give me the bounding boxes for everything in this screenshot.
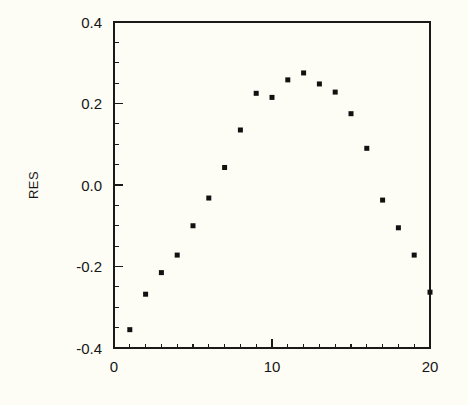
data-point: [222, 165, 227, 170]
data-point: [270, 95, 275, 100]
y-tick-label: 0.4: [81, 14, 102, 31]
data-point-group: [127, 70, 432, 332]
data-point: [285, 77, 290, 82]
data-point: [349, 111, 354, 116]
y-axis-title: RES: [26, 171, 41, 199]
data-point: [127, 327, 132, 332]
x-tick-label: 10: [264, 358, 281, 375]
y-axis-ticks: [114, 22, 123, 348]
x-tick-label: 20: [422, 358, 439, 375]
data-point: [380, 198, 385, 203]
y-tick-label: 0.0: [81, 177, 102, 194]
figure-canvas: -0.4-0.20.00.20.4 01020 RES: [0, 0, 468, 405]
data-point: [206, 196, 211, 201]
y-tick-label: 0.2: [81, 95, 102, 112]
y-tick-label: -0.2: [76, 258, 102, 275]
data-point: [238, 127, 243, 132]
x-axis-ticks: [114, 339, 430, 348]
data-point: [143, 292, 148, 297]
y-axis-tick-labels: -0.4-0.20.00.20.4: [76, 14, 102, 357]
x-axis-tick-labels: 01020: [110, 358, 439, 375]
data-point: [301, 70, 306, 75]
data-point: [412, 253, 417, 258]
data-point: [428, 290, 433, 295]
data-point: [317, 81, 322, 86]
scatter-plot: -0.4-0.20.00.20.4 01020 RES: [0, 0, 468, 405]
data-point: [333, 90, 338, 95]
axis-frame: [114, 22, 430, 348]
data-point: [175, 253, 180, 258]
data-point: [159, 270, 164, 275]
data-point: [191, 223, 196, 228]
data-point: [364, 146, 369, 151]
y-tick-label: -0.4: [76, 340, 102, 357]
x-tick-label: 0: [110, 358, 118, 375]
data-point: [254, 91, 259, 96]
data-point: [396, 225, 401, 230]
